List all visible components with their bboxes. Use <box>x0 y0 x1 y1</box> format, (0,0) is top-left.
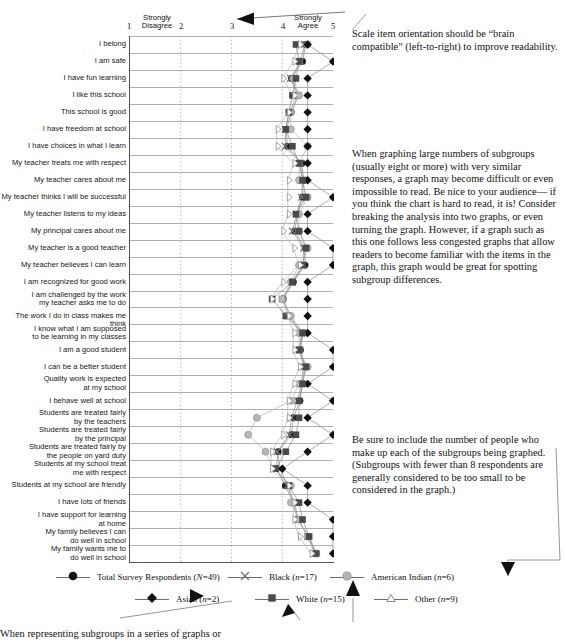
legend-swatch-other <box>374 599 408 600</box>
open-triangle-marker <box>293 244 298 252</box>
filled-diamond-marker <box>303 278 311 286</box>
filled-square-marker <box>293 211 300 218</box>
open-triangle-icon <box>385 593 397 606</box>
filled-circle-icon <box>68 571 79 584</box>
open-triangle-marker <box>276 142 281 150</box>
filled-diamond-marker <box>329 346 334 354</box>
axis-anchor-low-line2: Disagree <box>142 21 172 30</box>
filled-diamond-marker <box>303 210 311 218</box>
chart-legend: Total Survey Respondents (N=49) Black (n… <box>0 566 566 618</box>
open-triangle-marker <box>287 210 292 218</box>
legend-label-black: Black (n=17) <box>269 572 317 582</box>
item-label: My family believes I cando well in schoo… <box>0 528 126 545</box>
series-4 <box>269 41 320 557</box>
gray-circle-icon <box>342 571 353 584</box>
filled-square-marker <box>299 381 306 388</box>
item-label: My teacher believes I can learn <box>0 261 126 269</box>
filled-diamond-marker <box>329 532 334 540</box>
legend-label-white: White (n=15) <box>296 594 345 604</box>
filled-diamond-marker <box>303 125 311 133</box>
gray-circle-marker <box>279 296 286 303</box>
gray-circle-marker <box>262 448 269 455</box>
item-label: I have support for learningat home <box>0 511 126 528</box>
item-label: I can be a better student <box>0 363 126 371</box>
filled-diamond-marker <box>329 431 334 439</box>
item-label: I am challenged by the workmy teacher as… <box>0 291 126 308</box>
item-label: My family wants me todo well in school <box>0 545 126 562</box>
filled-square-marker <box>296 414 303 421</box>
item-label: My principal cares about me <box>0 227 126 235</box>
item-label: Students are treated fairly bythe people… <box>0 443 126 460</box>
filled-square-marker <box>303 194 310 201</box>
axis-tick-1: 1 <box>127 21 131 31</box>
item-label: I am safe <box>0 57 126 65</box>
filled-square-icon <box>267 593 278 606</box>
plot-area <box>129 36 334 563</box>
axis-anchor-high-line2: Agree <box>298 21 318 30</box>
y-axis-item-labels: I belongI am safeI have fun learningI li… <box>0 36 129 562</box>
item-label: I like this school <box>0 91 126 99</box>
item-label: My teacher is a good teacher <box>0 244 126 252</box>
filled-diamond-marker <box>303 227 311 235</box>
filled-diamond-marker <box>329 363 334 371</box>
filled-diamond-marker <box>329 57 334 65</box>
filled-square-marker <box>293 431 300 438</box>
item-label: Students at my school are friendly <box>0 481 126 489</box>
item-label: I have lots of friends <box>0 498 126 506</box>
item-label: I have choices in what I learn <box>0 142 126 150</box>
plot-wrapper: I belongI am safeI have fun learningI li… <box>0 36 340 562</box>
item-label: I have fun learning <box>0 74 126 82</box>
legend-swatch-white <box>255 599 289 600</box>
filled-diamond-marker <box>329 397 334 405</box>
item-label: Students are treated fairlyby the princi… <box>0 426 126 443</box>
axis-tick-3: 3 <box>230 21 234 31</box>
legend-item-white[interactable]: White (n=15) <box>255 592 345 606</box>
filled-square-marker <box>296 398 303 405</box>
item-label: Students are treated fairlyby the teache… <box>0 409 126 426</box>
filled-diamond-marker <box>303 312 311 320</box>
legend-item-other[interactable]: Other (n=9) <box>374 592 458 606</box>
axis-tick-5: 5 <box>331 21 335 31</box>
filled-diamond-marker <box>329 515 334 523</box>
item-label: My teacher listens to my ideas <box>0 210 126 218</box>
filled-diamond-marker <box>303 498 311 506</box>
legend-item-asian[interactable]: Asian (n=2) <box>135 592 219 606</box>
legend-swatch-total <box>56 577 90 578</box>
filled-square-marker <box>293 75 300 82</box>
x-axis-scale: 1 2 3 4 5 Strongly Disagree Strongly Agr… <box>0 12 340 36</box>
item-label: This school is good <box>0 108 126 116</box>
item-label: Quality work is expectedat my school <box>0 375 126 392</box>
legend-item-american-indian[interactable]: American Indian (n=6) <box>330 570 454 584</box>
filled-diamond-marker <box>303 159 311 167</box>
filled-square-marker <box>283 126 290 133</box>
chart-container: 1 2 3 4 5 Strongly Disagree Strongly Agr… <box>0 0 340 600</box>
axis-anchor-low: Strongly Disagree <box>134 14 180 30</box>
filled-diamond-marker <box>329 193 334 201</box>
filled-diamond-marker <box>303 448 311 456</box>
legend-swatch-black <box>228 577 262 578</box>
axis-anchor-high: Strongly Agree <box>285 14 331 30</box>
legend-swatch-american-indian <box>330 577 364 578</box>
item-label: My teacher treats me with respect <box>0 159 126 167</box>
legend-label-other: Other (n=9) <box>415 594 458 604</box>
filled-square-marker <box>303 245 310 252</box>
filled-square-marker <box>299 516 306 523</box>
legend-item-black[interactable]: Black (n=17) <box>228 570 317 584</box>
legend-label-american-indian: American Indian (n=6) <box>371 572 454 582</box>
open-triangle-marker <box>287 193 292 201</box>
item-label: I am recognized for good work <box>0 278 126 286</box>
filled-diamond-marker <box>303 74 311 82</box>
item-label: I know what I am supposedto be learning … <box>0 325 126 342</box>
filled-diamond-marker <box>329 261 334 269</box>
annotation-note-many-subgroups: When graphing large numbers of subgroups… <box>352 148 560 287</box>
filled-square-marker <box>283 448 290 455</box>
filled-diamond-marker <box>303 481 311 489</box>
filled-diamond-marker <box>278 464 286 472</box>
gray-circle-marker <box>253 414 260 421</box>
filled-square-marker <box>299 177 306 184</box>
legend-swatch-asian <box>135 599 169 600</box>
item-label: Students at my school treatme with respe… <box>0 460 126 477</box>
legend-item-total[interactable]: Total Survey Respondents (N=49) <box>56 570 220 584</box>
filled-diamond-marker <box>303 295 311 303</box>
legend-label-asian: Asian (n=2) <box>176 594 219 604</box>
